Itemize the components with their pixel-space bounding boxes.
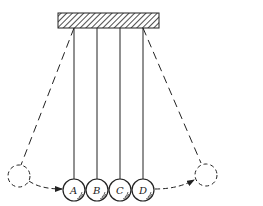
ceiling-support [58,13,159,28]
ball-label-a: A [69,185,77,196]
final-ball-right [195,164,217,186]
ball-c: C [109,179,131,201]
ball-a: A [63,179,85,201]
released-ball-left [8,165,30,187]
right-swing-string [143,28,201,163]
left-swing-string [21,28,74,165]
ball-label-c: C [116,185,124,196]
ball-label-b: B [92,185,100,196]
ball-label-d: D [138,185,147,196]
ball-b: B [86,179,108,201]
newtons-cradle-diagram: A B C D [0,0,263,206]
outgoing-arrow [155,180,194,189]
ball-d: D [132,179,154,201]
incoming-arrow [29,181,62,189]
